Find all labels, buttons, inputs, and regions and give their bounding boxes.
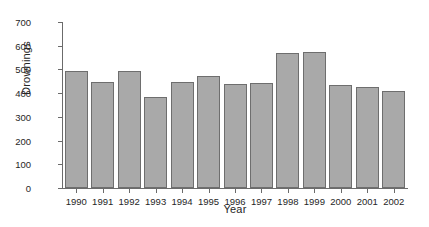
bar-2002 (382, 91, 405, 188)
x-tick-1999 (314, 189, 315, 193)
bar-1993 (144, 97, 167, 188)
y-tick-label-700: 700 (0, 18, 31, 28)
bar-2000 (329, 85, 352, 188)
y-tick-100 (58, 164, 62, 165)
y-tick-label-600: 600 (0, 42, 31, 52)
x-tick-1994 (182, 189, 183, 193)
bar-1997 (250, 83, 273, 188)
bar-1995 (197, 76, 220, 188)
x-tick-1990 (76, 189, 77, 193)
y-tick-500 (58, 69, 62, 70)
bar-1998 (276, 53, 299, 188)
plot-area: 0100200300400500600700 19901991199219931… (63, 22, 407, 188)
bar-1996 (224, 84, 247, 188)
bar-1990 (65, 71, 88, 188)
y-tick-300 (58, 117, 62, 118)
bar-1994 (171, 82, 194, 188)
x-tick-1996 (235, 189, 236, 193)
y-tick-label-100: 100 (0, 160, 31, 170)
y-tick-label-200: 200 (0, 137, 31, 147)
x-tick-2001 (367, 189, 368, 193)
bar-1999 (303, 52, 326, 188)
bar-1992 (118, 71, 141, 188)
x-tick-1998 (288, 189, 289, 193)
x-tick-1997 (261, 189, 262, 193)
bar-chart-figure: Drownings 0100200300400500600700 1990199… (0, 0, 429, 227)
bar-2001 (356, 87, 379, 188)
y-tick-label-300: 300 (0, 113, 31, 123)
y-tick-label-400: 400 (0, 89, 31, 99)
x-tick-1993 (156, 189, 157, 193)
y-tick-700 (58, 22, 62, 23)
x-tick-2000 (341, 189, 342, 193)
y-tick-0 (58, 188, 62, 189)
x-axis-title: Year (63, 203, 407, 215)
y-tick-600 (58, 46, 62, 47)
bar-1991 (91, 82, 114, 188)
x-tick-1991 (103, 189, 104, 193)
x-tick-2002 (394, 189, 395, 193)
y-tick-label-0: 0 (0, 184, 31, 194)
x-tick-1992 (129, 189, 130, 193)
y-tick-400 (58, 93, 62, 94)
y-tick-200 (58, 141, 62, 142)
y-axis-line (62, 22, 63, 189)
x-tick-1995 (209, 189, 210, 193)
y-tick-label-500: 500 (0, 65, 31, 75)
